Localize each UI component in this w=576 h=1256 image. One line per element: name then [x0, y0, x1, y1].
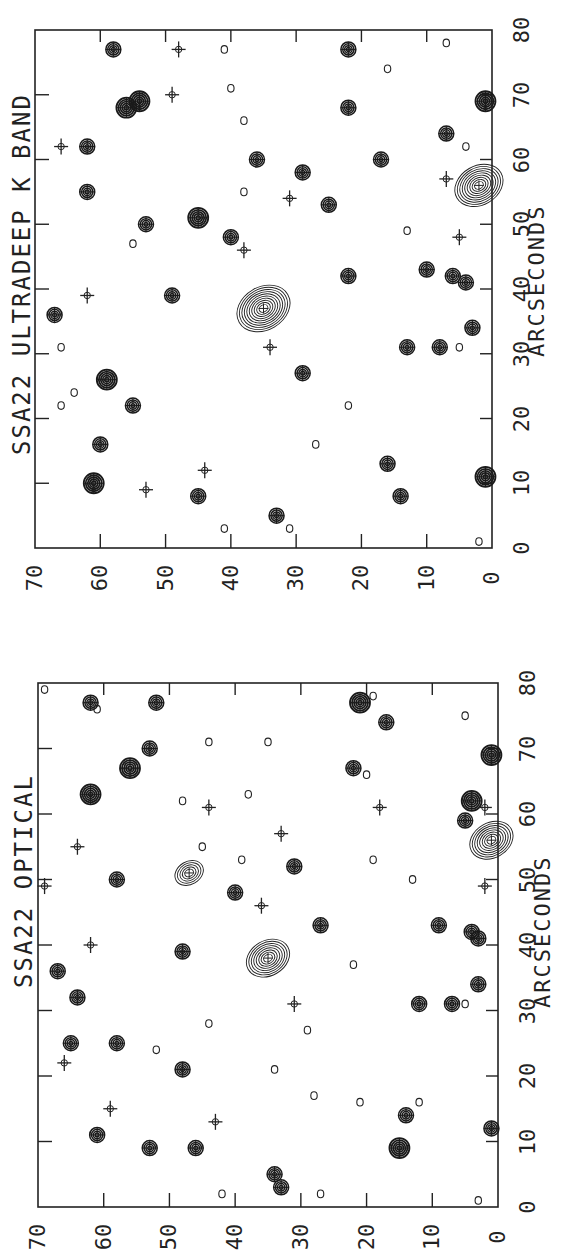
- source-contour: [341, 42, 356, 57]
- source-contour: [419, 262, 434, 277]
- source-contour: [239, 856, 245, 864]
- source-contour: [412, 996, 427, 1011]
- source-contour: [229, 276, 299, 341]
- source-contour: [191, 489, 206, 504]
- source-contour: [341, 100, 356, 115]
- source-contour: [350, 961, 356, 969]
- panel-title: SSA22 OPTICAL: [10, 774, 38, 988]
- source-contour: [93, 437, 108, 452]
- source-cross-marker: [439, 171, 453, 187]
- plot-frame: [35, 30, 492, 548]
- source-contour: [400, 340, 415, 355]
- source-contour: [346, 761, 361, 776]
- source-cross-marker: [254, 898, 268, 914]
- source-contour: [80, 139, 95, 154]
- source-contour: [63, 1036, 78, 1051]
- source-cross-marker: [452, 229, 466, 245]
- source-contour: [393, 489, 408, 504]
- source-contour: [357, 1098, 363, 1106]
- panel-k-band: SSA22 ULTRADEEP K BAND ARCSECONDS 010203…: [0, 0, 576, 628]
- source-contour: [475, 91, 495, 111]
- source-contour: [240, 932, 297, 985]
- source-contour: [475, 1197, 481, 1205]
- source-contour: [199, 843, 205, 851]
- source-contour: [484, 1121, 499, 1136]
- x-tick-label: 50: [510, 204, 534, 244]
- source-contour: [269, 508, 284, 523]
- source-contour: [271, 1066, 277, 1074]
- source-cross-marker: [274, 826, 288, 842]
- source-contour: [458, 275, 473, 290]
- y-tick-label: 60: [88, 558, 112, 598]
- source-contour: [58, 402, 64, 410]
- source-contour: [416, 1098, 422, 1106]
- source-contour: [286, 525, 292, 533]
- y-tick-label: 60: [92, 1217, 116, 1256]
- source-cross-marker: [283, 190, 297, 206]
- source-contour: [241, 188, 247, 196]
- source-cross-marker: [208, 1114, 222, 1130]
- source-contour: [221, 46, 227, 54]
- x-tick-label: 60: [516, 794, 540, 834]
- source-contour: [384, 65, 390, 73]
- x-tick-label: 30: [516, 991, 540, 1031]
- source-cross-marker: [165, 87, 179, 103]
- source-contour: [81, 784, 101, 804]
- y-tick-label: 40: [223, 1217, 247, 1256]
- source-contour: [71, 389, 77, 397]
- source-cross-marker: [172, 41, 186, 57]
- y-tick-label: 30: [284, 558, 308, 598]
- source-contour: [443, 39, 449, 47]
- x-tick-label: 40: [510, 269, 534, 309]
- source-contour: [245, 791, 251, 799]
- source-contour: [471, 977, 486, 992]
- source-contour: [179, 797, 185, 805]
- source-contour: [313, 441, 319, 449]
- source-contour: [370, 692, 376, 700]
- source-contour: [265, 738, 271, 746]
- y-tick-label: 40: [219, 558, 243, 598]
- source-contour: [475, 467, 495, 487]
- source-contour: [321, 197, 336, 212]
- x-tick-label: 50: [516, 860, 540, 900]
- source-cross-marker: [263, 339, 277, 355]
- source-contour: [249, 152, 264, 167]
- source-contour: [463, 143, 469, 151]
- x-tick-label: 70: [516, 729, 540, 769]
- contour-plot-optical: [0, 628, 576, 1256]
- source-contour: [481, 745, 501, 765]
- source-cross-marker: [103, 1101, 117, 1117]
- y-tick-label: 0: [480, 558, 504, 598]
- x-tick-label: 10: [510, 463, 534, 503]
- source-contour: [80, 184, 95, 199]
- y-tick-label: 20: [349, 558, 373, 598]
- source-contour: [350, 693, 370, 713]
- source-contour: [287, 859, 302, 874]
- source-contour: [241, 117, 247, 125]
- x-tick-label: 40: [516, 925, 540, 965]
- source-contour: [462, 712, 468, 720]
- x-tick-label: 30: [510, 334, 534, 374]
- x-tick-label: 80: [510, 10, 534, 50]
- source-contour: [70, 990, 85, 1005]
- source-contour: [142, 1141, 157, 1156]
- source-contour: [219, 1190, 225, 1198]
- source-contour: [228, 885, 243, 900]
- source-contour: [47, 307, 62, 322]
- source-contour: [456, 343, 462, 351]
- contour-plot-k-band: [0, 0, 576, 628]
- source-contour: [153, 1046, 159, 1054]
- source-contour: [445, 996, 460, 1011]
- source-contour: [431, 918, 446, 933]
- source-contour: [380, 456, 395, 471]
- source-contour: [130, 240, 136, 248]
- source-contour: [138, 217, 153, 232]
- source-contour: [341, 269, 356, 284]
- source-contour: [295, 165, 310, 180]
- source-contour: [370, 856, 376, 864]
- source-cross-marker: [139, 482, 153, 498]
- source-contour: [50, 964, 65, 979]
- source-contour: [41, 686, 47, 694]
- source-cross-marker: [80, 287, 94, 303]
- source-cross-marker: [57, 1055, 71, 1071]
